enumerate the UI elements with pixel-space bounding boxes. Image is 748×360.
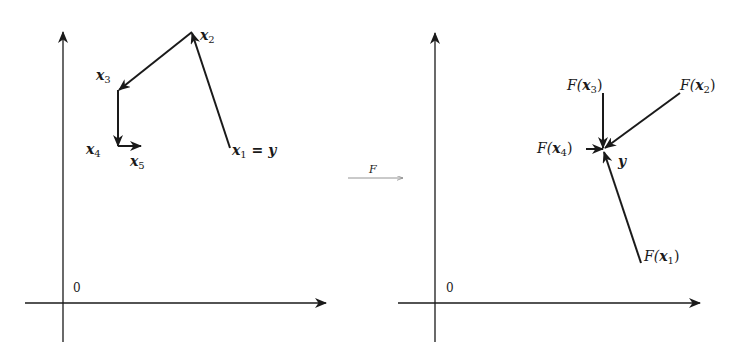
label-y: y	[617, 153, 627, 169]
label-Fx3: F(x3)	[566, 77, 602, 95]
label-Fx1: F(x1)	[643, 248, 679, 266]
arrow-x1-to-x2	[192, 33, 230, 148]
arrow-Fx2-to-y	[605, 93, 680, 148]
label-x4: x4	[85, 141, 101, 159]
right-origin-label: 0	[446, 281, 454, 295]
label-Fx4: F(x4)	[536, 140, 572, 158]
label-x2: x2	[199, 27, 215, 45]
label-x5: x5	[129, 153, 145, 171]
right-panel: 0 F(x3) F(x2) F(x4) y F(x1)	[398, 33, 715, 342]
left-origin-label: 0	[73, 281, 81, 295]
label-x1-equals-y: x1 = y	[231, 142, 277, 160]
label-Fx2: F(x2)	[679, 77, 715, 95]
arrow-x2-to-x3	[119, 32, 192, 90]
mapping-arrow-F: F	[348, 163, 403, 178]
label-x3: x3	[95, 67, 111, 85]
mapping-label: F	[368, 163, 377, 176]
left-panel: 0 x2 x3 x4 x5 x1 = y	[25, 27, 326, 342]
diagram-canvas: 0 x2 x3 x4 x5 x1 = y F 0 F(x3) F(x2) F(x…	[0, 0, 748, 360]
